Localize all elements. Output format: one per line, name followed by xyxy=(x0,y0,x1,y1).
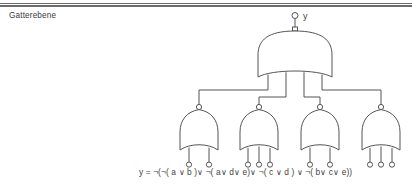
bus-wire-gate-2 xyxy=(259,84,286,104)
slide-canvas: Gatterebene xyxy=(0,0,412,191)
top-nor-gate-body xyxy=(258,31,332,77)
nor-gate-3-output-bubble xyxy=(317,104,322,109)
nor-gate-2-output-bubble xyxy=(256,104,261,109)
bus-wire-gate-1 xyxy=(199,84,268,104)
nor-gate-4-body xyxy=(362,110,400,150)
bus-wire-gate-3 xyxy=(304,84,320,104)
bus-wire-gate-4 xyxy=(322,84,381,104)
nor-gate-3-body xyxy=(301,110,339,150)
logic-circuit-diagram: y xyxy=(0,0,412,191)
nor-gate-1-output-bubble xyxy=(196,104,201,109)
nor-gate-4-input-bubble-e xyxy=(389,162,394,167)
nor-gate-4-input-bubble-b xyxy=(367,162,372,167)
nor-gate-2-body xyxy=(240,110,278,150)
nor-gate-4-input-bubble-c xyxy=(378,162,383,167)
output-label-y: y xyxy=(303,11,308,21)
output-inversion-bubble xyxy=(292,13,298,19)
nor-gate-4-output-bubble xyxy=(378,104,383,109)
nor-gate-1-body xyxy=(180,110,218,150)
output-terminal xyxy=(293,27,298,31)
boolean-formula: y = ¬(¬( a ∨ b )∨ ¬( a∨ d∨ e)∨ ¬( c ∨ d … xyxy=(139,166,352,178)
